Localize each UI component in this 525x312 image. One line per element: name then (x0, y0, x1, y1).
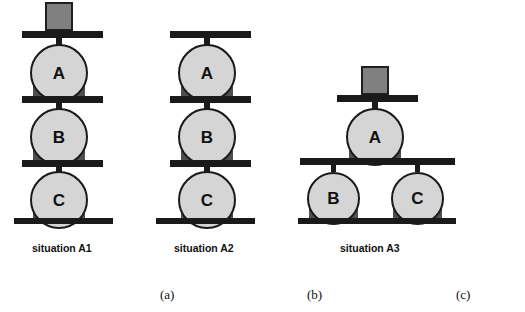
plate-a1-bc (22, 160, 103, 167)
contact-stub-a3-c (415, 165, 420, 172)
ball-label: C (411, 190, 423, 207)
plate-a2-bc (170, 160, 251, 167)
situation-a2: A B C situation A2 (150, 0, 295, 250)
situation-a1: A B C situation A1 (0, 0, 150, 250)
ball-a2-a: A (178, 44, 236, 102)
plate-a2-ab (170, 96, 251, 103)
ground-a1 (14, 218, 113, 224)
ball-label: A (201, 65, 213, 82)
ball-label: A (369, 129, 381, 146)
top-plate-a2 (170, 31, 251, 38)
weight-block-a3 (361, 66, 389, 95)
ball-label: C (201, 192, 213, 209)
top-plate-a3 (337, 95, 418, 102)
plate-a3-middle (300, 158, 455, 165)
ball-label: B (201, 129, 213, 146)
ball-a1-a: A (30, 44, 88, 102)
situation-a3: A B C situation A3 (295, 0, 525, 250)
plate-a1-ab (22, 96, 103, 103)
contact-stub-a3-b (331, 165, 336, 172)
panel-label-c: (c) (456, 287, 470, 303)
ball-a2-b: B (178, 108, 236, 166)
panel-label-b: (b) (307, 287, 322, 303)
ball-label: C (53, 192, 65, 209)
ground-a2 (156, 218, 255, 224)
caption-situation-a3: situation A3 (340, 242, 400, 254)
ball-label: B (327, 190, 339, 207)
ball-label: A (53, 65, 65, 82)
caption-situation-a2: situation A2 (174, 242, 234, 254)
physics-figure: A B C situation A1 A (0, 0, 525, 312)
ball-a1-b: B (30, 108, 88, 166)
ground-a3 (298, 218, 456, 224)
top-plate-a1 (22, 31, 103, 38)
panel-label-a: (a) (160, 287, 174, 303)
caption-situation-a1: situation A1 (32, 242, 92, 254)
ball-label: B (53, 129, 65, 146)
weight-block-a1 (45, 2, 73, 31)
